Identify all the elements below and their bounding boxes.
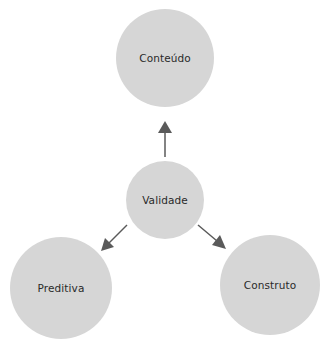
node-label: Construto (244, 279, 296, 291)
node-preditiva: Preditiva (10, 237, 112, 339)
node-label: Preditiva (38, 282, 85, 294)
node-label: Conteúdo (139, 52, 191, 64)
node-label: Validade (142, 194, 188, 206)
node-validade: Validade (126, 161, 204, 239)
node-construto: Construto (220, 235, 320, 335)
arrow-validade-to-conteudo (158, 121, 172, 157)
node-conteudo: Conteúdo (116, 9, 214, 107)
arrow-validade-to-preditiva (101, 225, 127, 251)
arrow-validade-to-construto (198, 225, 226, 249)
